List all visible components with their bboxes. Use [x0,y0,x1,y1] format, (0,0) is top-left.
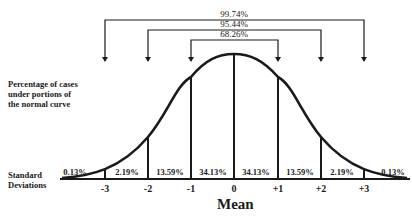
axis-title-mean: Mean [217,196,254,213]
segment-label: 0.13% [381,167,404,177]
sd-lines [105,54,364,179]
side-label-line: Deviations [8,180,46,190]
tick-label: +2 [316,183,327,194]
side-label-line: Percentage of cases [8,79,78,89]
side-label-line: under portions of [8,89,78,99]
segment-label: 13.59% [156,167,184,177]
segment-label: 0.13% [63,167,86,177]
segment-label: 34.13% [242,167,270,177]
side-label-percentage: Percentage of cases under portions of th… [8,79,78,109]
tick-label: -3 [101,183,109,194]
bracket-label-99-74: 99.74% [220,9,248,19]
side-label-standard-deviations: Standard Deviations [8,170,46,190]
segment-label: 2.19% [330,167,353,177]
tick-label: +3 [359,183,370,194]
side-label-line: Standard [8,170,46,180]
tick-label: +1 [273,183,284,194]
bracket-label-95-44: 95.44% [220,19,248,29]
tick-label: -2 [144,183,152,194]
tick-label: 0 [232,183,237,194]
side-label-line: the normal curve [8,99,78,109]
tick-label: -1 [187,183,195,194]
normal-curve-diagram: 99.74% 95.44% 68.26% 0.13% 2.19% 13.59% … [0,0,412,218]
bracket-label-68-26: 68.26% [220,29,248,39]
segment-label: 2.19% [115,167,138,177]
segment-label: 34.13% [199,167,227,177]
segment-label: 13.59% [286,167,314,177]
